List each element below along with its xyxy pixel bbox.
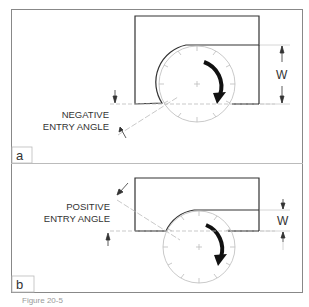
rotation-arrow-icon-a (204, 62, 226, 104)
angle-arrows-a (113, 90, 126, 138)
cut-arc-b (166, 210, 194, 231)
angle-label-b-line2: ENTRY ANGLE (44, 213, 110, 224)
figure-caption: Figure 20-5 (22, 296, 63, 305)
w-label-b: W (277, 214, 289, 228)
center-mark-a (194, 81, 200, 87)
w-label-a: W (276, 68, 288, 82)
panel-label-b: b (16, 277, 23, 292)
center-mark-b (196, 244, 202, 250)
angle-label-a-line1: NEGATIVE (62, 109, 109, 120)
figure-diagram: W NEGATIVE ENTRY ANGLE a (0, 0, 309, 307)
panel-a: W NEGATIVE ENTRY ANGLE a (12, 16, 290, 163)
entry-angle-line-b (117, 200, 180, 240)
panel-b: W POSITIVE ENTRY ANGLE b (12, 178, 290, 292)
angle-label-a-line2: ENTRY ANGLE (43, 121, 109, 132)
angle-label-b-line1: POSITIVE (66, 201, 110, 212)
panel-label-a: a (16, 148, 24, 163)
workpiece-outline-a (135, 16, 259, 104)
entry-angle-line-a (118, 97, 178, 135)
